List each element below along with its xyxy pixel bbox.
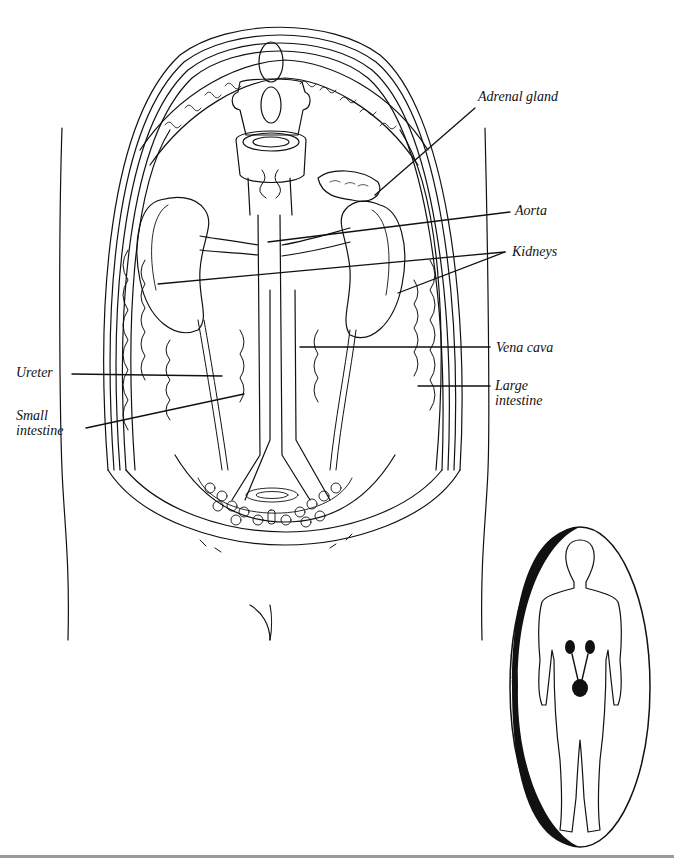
adrenal-gland — [318, 171, 380, 201]
label-small-intestine: Small intestine — [16, 408, 63, 438]
label-vena-cava: Vena cava — [496, 340, 553, 355]
anatomy-illustration — [0, 0, 674, 860]
great-vessels — [200, 215, 350, 500]
leader-kidneys-right — [398, 252, 505, 293]
label-kidneys: Kidneys — [512, 244, 557, 259]
leader-ureter — [72, 374, 222, 376]
leader-adrenal-gland — [375, 108, 475, 195]
kidney-right — [341, 201, 405, 337]
pelvic-floor — [198, 478, 352, 527]
leader-kidneys-left — [158, 252, 505, 284]
label-large-intestine: Large intestine — [495, 378, 542, 408]
ureters — [198, 320, 356, 470]
leader-small-intestine — [86, 394, 244, 428]
label-ureter: Ureter — [16, 365, 53, 380]
leader-aorta — [268, 212, 510, 242]
bottom-border-rule — [0, 855, 674, 858]
abdominal-wall-layers — [104, 27, 462, 545]
label-adrenal-gland: Adrenal gland — [478, 89, 558, 104]
label-aorta: Aorta — [515, 203, 547, 218]
kidney-left — [137, 197, 209, 332]
inset-body-figure — [510, 527, 650, 847]
